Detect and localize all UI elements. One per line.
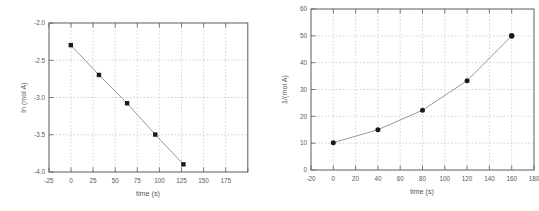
y-tick-label: -4.0 [34, 168, 45, 175]
data-point [97, 73, 101, 77]
left-x-axis-label: time (s) [136, 189, 160, 198]
x-tick-label: 20 [352, 175, 360, 182]
x-tick-label: 25 [90, 177, 98, 184]
right-y-ticklabels: 0 10 20 30 40 50 60 [300, 5, 308, 173]
x-tick-label: -25 [44, 177, 54, 184]
data-point [465, 78, 470, 83]
x-tick-label: 40 [374, 175, 382, 182]
y-tick-label: 40 [300, 59, 308, 66]
x-tick-label: 160 [506, 175, 517, 182]
x-tick-label: 60 [397, 175, 405, 182]
chart-panel-left: -4.0 -3.5 -3.0 -2.5 -2.0 -25 0 25 50 75 … [0, 0, 270, 211]
left-chart-svg: -4.0 -3.5 -3.0 -2.5 -2.0 -25 0 25 50 75 … [0, 0, 270, 211]
x-tick-label: 125 [176, 177, 187, 184]
data-point [375, 127, 380, 132]
y-tick-label: 10 [300, 139, 308, 146]
right-chart-svg: 0 10 20 30 40 50 60 -20 0 20 40 60 80 10… [270, 0, 539, 211]
data-point [69, 43, 73, 47]
right-plot-area: 0 10 20 30 40 50 60 -20 0 20 40 60 80 10… [280, 5, 539, 196]
left-y-ticklabels: -4.0 -3.5 -3.0 -2.5 -2.0 [34, 19, 45, 175]
left-horizontal-gridlines [49, 60, 248, 135]
data-point [331, 140, 336, 145]
x-tick-label: 0 [332, 175, 336, 182]
x-tick-label: 100 [440, 175, 451, 182]
x-tick-label: 100 [154, 177, 165, 184]
data-point [125, 101, 129, 105]
x-tick-label: 120 [462, 175, 473, 182]
left-x-ticklabels: -25 0 25 50 75 100 125 150 175 [44, 177, 231, 184]
x-tick-label: -20 [306, 175, 316, 182]
y-tick-label: -3.5 [34, 131, 45, 138]
y-tick-label: 0 [303, 166, 307, 173]
x-tick-label: 140 [484, 175, 495, 182]
data-point [420, 108, 425, 113]
data-point [181, 162, 185, 166]
right-x-ticklabels: -20 0 20 40 60 80 100 120 140 160 180 [306, 175, 539, 182]
y-tick-label: 50 [300, 32, 308, 39]
left-y-axis-label: ln (mol A) [19, 82, 28, 112]
x-tick-label: 175 [220, 177, 231, 184]
chart-panel-right: 0 10 20 30 40 50 60 -20 0 20 40 60 80 10… [270, 0, 539, 211]
y-tick-label: 60 [300, 5, 308, 12]
x-tick-label: 50 [112, 177, 120, 184]
x-tick-label: 75 [134, 177, 142, 184]
y-tick-label: 20 [300, 113, 308, 120]
data-point [153, 132, 157, 136]
two-panel-kinetics-figure: -4.0 -3.5 -3.0 -2.5 -2.0 -25 0 25 50 75 … [0, 0, 539, 211]
x-tick-label: 150 [198, 177, 209, 184]
left-y-tickmarks [49, 23, 54, 172]
y-tick-label: -2.5 [34, 57, 45, 64]
left-plot-area: -4.0 -3.5 -3.0 -2.5 -2.0 -25 0 25 50 75 … [19, 19, 248, 198]
x-tick-label: 80 [419, 175, 427, 182]
right-y-axis-label: 1/(mol A) [280, 75, 289, 104]
y-tick-label: -3.0 [34, 94, 45, 101]
right-y-tickmarks [311, 9, 316, 170]
y-tick-label: -2.0 [34, 19, 45, 26]
y-tick-label: 30 [300, 86, 308, 93]
right-x-axis-label: time (s) [410, 187, 434, 196]
x-tick-label: 180 [529, 175, 539, 182]
data-point [509, 33, 515, 39]
x-tick-label: 0 [69, 177, 73, 184]
